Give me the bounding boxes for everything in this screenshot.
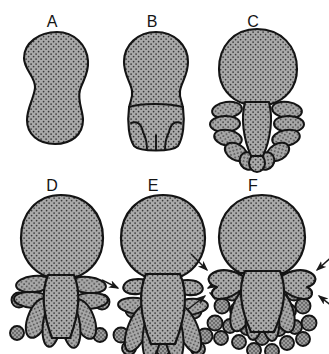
organism-body-c: [210, 29, 305, 173]
figure-panel-grid: A B C D E F: [0, 0, 329, 354]
organism-body-a: [24, 32, 88, 144]
panel-d: [8, 192, 114, 350]
arrow-f-right-upper: [317, 254, 329, 270]
panel-b: [110, 28, 202, 156]
panel-a: [10, 28, 102, 148]
panel-d-drawing: [8, 192, 114, 350]
panel-f-drawing: [195, 192, 329, 354]
organism-body-f: [208, 195, 317, 354]
panel-c: [207, 26, 309, 171]
arrow-e-left: [102, 280, 118, 288]
panel-a-drawing: [10, 28, 102, 148]
panel-b-drawing: [110, 28, 202, 156]
panel-f: [195, 192, 329, 354]
organism-body-d: [10, 195, 110, 349]
panel-c-drawing: [207, 26, 309, 171]
arrow-f-right-lower: [319, 296, 329, 310]
organism-body-b: [124, 32, 188, 151]
